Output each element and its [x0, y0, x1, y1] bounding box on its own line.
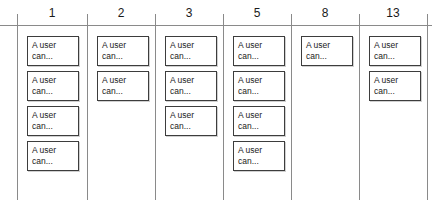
- story-card-line-2: can...: [170, 86, 216, 97]
- column-header-5: 5: [223, 4, 291, 22]
- story-card-line-2: can...: [32, 156, 78, 167]
- story-card-line-1: A user: [238, 145, 284, 156]
- story-card[interactable]: A usercan...: [165, 71, 217, 101]
- story-card[interactable]: A usercan...: [233, 36, 285, 66]
- column-divider-6: [427, 14, 428, 200]
- story-card-line-2: can...: [32, 51, 78, 62]
- story-card-line-2: can...: [238, 51, 284, 62]
- story-card-line-2: can...: [32, 86, 78, 97]
- story-card-line-2: can...: [306, 51, 352, 62]
- column-stack-13: A usercan...A usercan...: [369, 36, 421, 106]
- story-card-line-1: A user: [374, 40, 420, 51]
- story-card[interactable]: A usercan...: [97, 71, 149, 101]
- story-card-line-1: A user: [238, 110, 284, 121]
- story-card[interactable]: A usercan...: [233, 141, 285, 171]
- column-divider-4: [291, 14, 292, 200]
- story-card-line-1: A user: [32, 75, 78, 86]
- story-card-line-1: A user: [32, 40, 78, 51]
- story-card-line-1: A user: [238, 75, 284, 86]
- column-divider-2: [155, 14, 156, 200]
- column-header-2: 2: [87, 4, 155, 22]
- story-card-line-1: A user: [170, 110, 216, 121]
- story-card[interactable]: A usercan...: [27, 106, 79, 136]
- story-card[interactable]: A usercan...: [369, 71, 421, 101]
- story-card-line-1: A user: [306, 40, 352, 51]
- story-card-line-1: A user: [32, 110, 78, 121]
- story-card-line-2: can...: [170, 121, 216, 132]
- story-card[interactable]: A usercan...: [27, 71, 79, 101]
- column-stack-5: A usercan...A usercan...A usercan...A us…: [233, 36, 285, 176]
- story-card[interactable]: A usercan...: [369, 36, 421, 66]
- story-card[interactable]: A usercan...: [233, 71, 285, 101]
- story-card-line-1: A user: [32, 145, 78, 156]
- column-stack-2: A usercan...A usercan...: [97, 36, 149, 106]
- column-divider-1: [87, 14, 88, 200]
- story-card[interactable]: A usercan...: [233, 106, 285, 136]
- column-divider-3: [223, 14, 224, 200]
- story-card[interactable]: A usercan...: [97, 36, 149, 66]
- story-card-line-1: A user: [374, 75, 420, 86]
- story-card[interactable]: A usercan...: [165, 106, 217, 136]
- story-card-line-1: A user: [102, 40, 148, 51]
- story-card-line-2: can...: [238, 86, 284, 97]
- column-divider-0: [17, 14, 18, 200]
- column-header-8: 8: [291, 4, 359, 22]
- header-divider-rule: [0, 25, 432, 26]
- story-card-line-1: A user: [102, 75, 148, 86]
- story-card[interactable]: A usercan...: [27, 36, 79, 66]
- story-card-line-1: A user: [170, 75, 216, 86]
- story-card-line-2: can...: [238, 156, 284, 167]
- column-stack-1: A usercan...A usercan...A usercan...A us…: [27, 36, 79, 176]
- story-card-line-2: can...: [102, 51, 148, 62]
- column-header-1: 1: [17, 4, 87, 22]
- column-stack-3: A usercan...A usercan...A usercan...: [165, 36, 217, 141]
- story-card-line-1: A user: [170, 40, 216, 51]
- column-stack-8: A usercan...: [301, 36, 353, 71]
- column-header-3: 3: [155, 4, 223, 22]
- story-card[interactable]: A usercan...: [301, 36, 353, 66]
- estimation-board: 1235813 A usercan...A usercan...A userca…: [0, 0, 432, 206]
- story-card-line-2: can...: [102, 86, 148, 97]
- story-card[interactable]: A usercan...: [27, 141, 79, 171]
- story-card-line-2: can...: [32, 121, 78, 132]
- column-divider-5: [359, 14, 360, 200]
- story-card-line-2: can...: [170, 51, 216, 62]
- story-card[interactable]: A usercan...: [165, 36, 217, 66]
- story-card-line-2: can...: [374, 51, 420, 62]
- story-card-line-2: can...: [238, 121, 284, 132]
- column-header-13: 13: [359, 4, 427, 22]
- story-card-line-2: can...: [374, 86, 420, 97]
- story-card-line-1: A user: [238, 40, 284, 51]
